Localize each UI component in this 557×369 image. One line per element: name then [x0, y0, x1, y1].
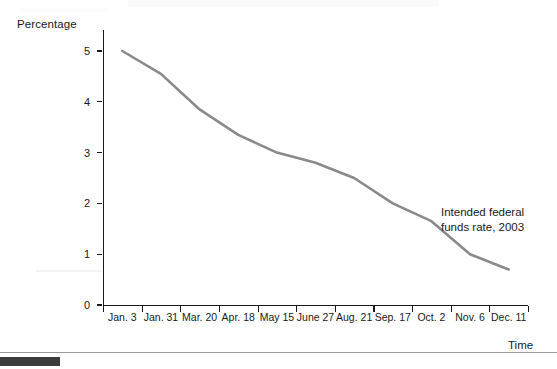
series-annotation-line-1: Intended federal [441, 205, 524, 220]
series-layer [0, 0, 557, 369]
series-annotation: Intended federal funds rate, 2003 [441, 205, 524, 234]
x-axis-title: Time [508, 339, 533, 351]
chart-figure: Percentage 012345 Jan. 3Jan. 31Mar. 20Ap… [0, 0, 557, 369]
series-line-intended-federal-funds-rate [122, 51, 508, 269]
footer-divider [0, 352, 557, 353]
series-annotation-line-2: funds rate, 2003 [441, 220, 524, 235]
footer-bar [0, 357, 60, 366]
